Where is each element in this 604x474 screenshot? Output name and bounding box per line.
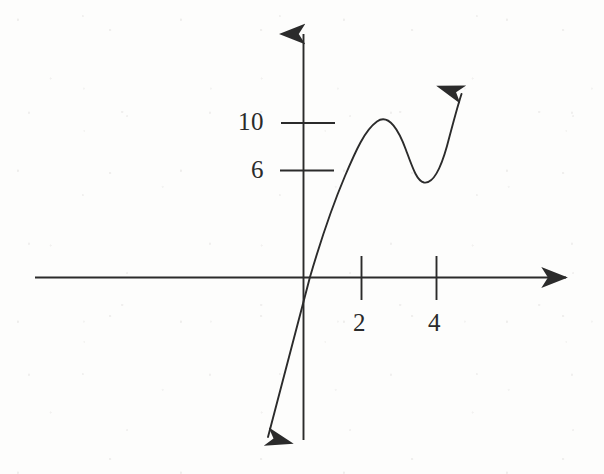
curve-path	[268, 94, 462, 437]
plot-canvas	[0, 0, 604, 474]
y-axis-tick-label-10: 10	[238, 109, 264, 134]
x-axis-tick-label-2: 2	[353, 310, 366, 335]
y-axis-tick-label-6: 6	[251, 157, 264, 182]
figure-root: 10 6 2 4	[0, 0, 604, 474]
x-axis-tick-label-4: 4	[428, 310, 441, 335]
